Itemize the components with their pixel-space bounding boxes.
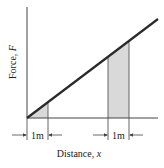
dimension-second-interval: 1m bbox=[93, 130, 143, 141]
force-line bbox=[27, 19, 158, 118]
force-distance-diagram: 1m 1m Force, F Distance, x bbox=[0, 0, 164, 168]
shaded-area-second-interval bbox=[108, 41, 129, 118]
dimension-first-interval: 1m bbox=[12, 130, 62, 141]
y-axis-label: Force, F bbox=[7, 44, 18, 79]
first-interval-label: 1m bbox=[31, 130, 44, 141]
second-interval-label: 1m bbox=[112, 130, 125, 141]
x-axis-label: Distance, x bbox=[57, 148, 102, 159]
